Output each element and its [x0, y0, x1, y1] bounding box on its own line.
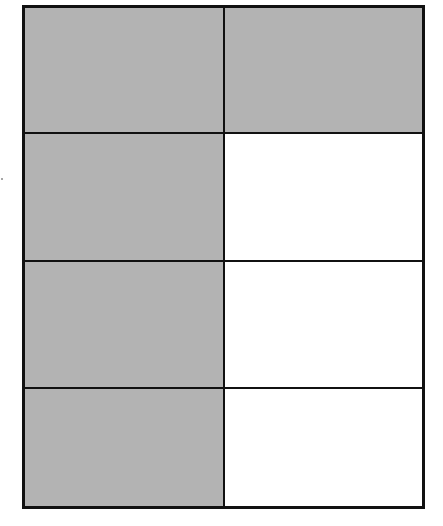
grid-cell-r2-c1: [25, 134, 223, 260]
scan-artifact-dot: [1, 178, 3, 180]
fraction-grid: [22, 5, 425, 509]
grid-cell-r4-c2: [225, 389, 422, 506]
grid-cell-r1-c1: [25, 8, 223, 132]
grid-cell-r4-c1: [25, 389, 223, 506]
grid-cell-r1-c2: [225, 8, 422, 132]
grid-cell-r3-c1: [25, 262, 223, 387]
grid-cell-r2-c2: [225, 134, 422, 260]
grid-cell-r3-c2: [225, 262, 422, 387]
